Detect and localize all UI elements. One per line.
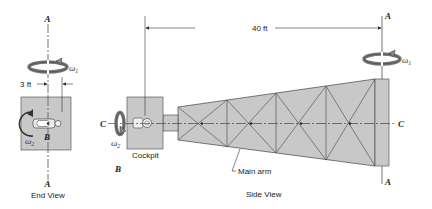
main-arm-truss [178,79,389,166]
side-view-dimension-label: 40 ft [252,24,268,33]
side-view-axis-a-bottom-label: A [384,177,391,187]
end-view-caption: End View [31,191,65,200]
end-view-omega1-label: ω1 [69,63,78,74]
side-view-axis-a-top-label: A [384,11,391,21]
cockpit-label: Cockpit [132,151,159,160]
pilot-figure-icon [133,118,152,128]
end-view-axis-a-top-label: A [44,14,51,24]
end-view-dimension-label: 3 ft [20,80,32,89]
side-view-axis-c-right-label: C [398,119,405,129]
side-view-omega2-label: ω2 [111,138,120,149]
side-view-point-b-label: B [114,164,121,174]
side-view-axis-c-left-label: C [100,119,107,129]
side-view-omega1-label: ω1 [402,55,411,66]
side-view: 40 ft A A ω1 [100,11,411,199]
connector-tube [163,115,178,131]
end-view: A A ω1 3 ft ω2 B [19,14,78,200]
end-view-point-b-label: B [43,132,50,142]
diagram-canvas: A A ω1 3 ft ω2 B [0,0,432,209]
end-view-axis-a-bottom-label: A [44,179,51,189]
side-view-caption: Side View [246,190,282,199]
main-arm-label: Main arm [238,167,272,176]
omega1-rotation-icon [364,50,400,66]
omega1-rotation-icon [29,58,67,74]
